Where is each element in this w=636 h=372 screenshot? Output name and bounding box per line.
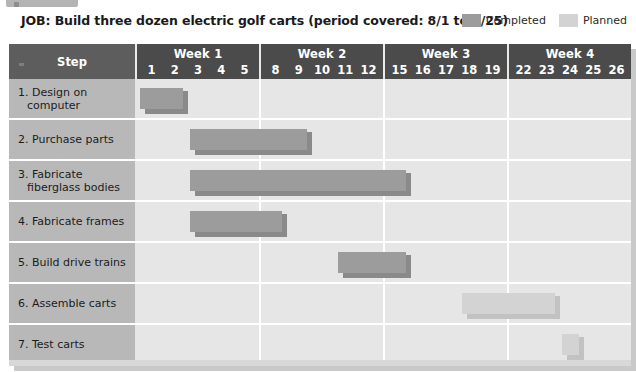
gantt-bar-face [190,170,406,191]
legend-item-completed: Completed [462,14,546,27]
legend: Completed Planned [462,14,627,27]
day-label: 8 [264,63,287,77]
step-label: 3. Fabricate fiberglass bodies [18,168,131,194]
gantt-bar-face [140,88,183,109]
tab-notch-icon [14,2,19,7]
day-label: 15 [388,63,411,77]
gantt-bar-bottom-shade [195,232,287,237]
day-label: 23 [535,63,558,77]
step-label: 5. Build drive trains [18,256,126,269]
gantt-bar-face [190,211,282,232]
week-divider-3 [507,79,509,366]
gantt-bar-bottom-shade [195,150,312,155]
day-label: 3 [186,63,209,77]
step-cell-5[interactable]: 5. Build drive trains [9,243,135,284]
week-day-labels: 2223242526 [509,63,631,77]
gantt-bar-face [338,252,405,273]
chart-bottom-strip [9,360,631,366]
week-header-label: Week 4 [509,47,631,61]
legend-swatch-completed-icon [462,14,481,27]
week-header-4: Week 42223242526 [507,44,631,79]
day-label: 18 [458,63,481,77]
gantt-bar-face [462,293,554,314]
gantt-bar-7[interactable] [562,334,580,355]
week-header-3: Week 31516171819 [383,44,507,79]
gantt-bar-6[interactable] [462,293,554,314]
day-label: 5 [233,63,256,77]
legend-label-completed: Completed [486,14,546,27]
steps-column: 1. Design on computer2. Purchase parts3.… [9,79,135,366]
gantt-bar-bottom-shade [195,191,411,196]
week-header-label: Week 1 [137,47,259,61]
chart-body: 1. Design on computer2. Purchase parts3.… [9,79,631,366]
week-header-2: Week 289101112 [259,44,383,79]
page-title: JOB: Build three dozen electric golf car… [21,13,508,28]
gantt-bar-bottom-shade [467,314,559,319]
day-label: 16 [411,63,434,77]
step-cell-3[interactable]: 3. Fabricate fiberglass bodies [9,161,135,202]
day-label: 24 [558,63,581,77]
step-cell-6[interactable]: 6. Assemble carts [9,284,135,325]
gantt-bar-5[interactable] [338,252,405,273]
window-tab-stub [6,0,78,7]
gantt-bar-1[interactable] [140,88,183,109]
day-label: 1 [140,63,163,77]
gantt-bar-2[interactable] [190,129,307,150]
day-label: 9 [287,63,310,77]
week-header-1: Week 112345 [135,44,259,79]
chart-header-row: Step Week 112345Week 289101112Week 31516… [9,44,631,79]
day-label: 11 [334,63,357,77]
week-header-label: Week 3 [385,47,507,61]
gantt-bar-bottom-shade [343,273,410,278]
week-header-label: Week 2 [261,47,383,61]
day-label: 25 [582,63,605,77]
step-cell-1[interactable]: 1. Design on computer [9,79,135,120]
legend-item-planned: Planned [559,14,627,27]
day-label: 2 [163,63,186,77]
day-label: 17 [434,63,457,77]
week-divider-2 [383,79,385,366]
step-label: 6. Assemble carts [18,297,116,310]
day-label: 12 [357,63,380,77]
step-label: 7. Test carts [18,338,85,351]
lanes-column [135,79,631,366]
step-label: 2. Purchase parts [18,133,114,146]
step-label: 1. Design on computer [18,86,131,112]
gantt-bar-bottom-shade [145,109,188,114]
step-cell-4[interactable]: 4. Fabricate frames [9,202,135,243]
gantt-bar-3[interactable] [190,170,406,191]
step-label: 4. Fabricate frames [18,215,124,228]
day-label: 10 [310,63,333,77]
week-day-labels: 89101112 [261,63,383,77]
week-day-labels: 1516171819 [385,63,507,77]
day-label: 22 [512,63,535,77]
week-day-labels: 12345 [137,63,259,77]
header-marker-icon [19,63,24,66]
step-cell-2[interactable]: 2. Purchase parts [9,120,135,161]
day-label: 19 [481,63,504,77]
legend-swatch-planned-icon [559,14,578,27]
gantt-bar-face [190,129,307,150]
day-label: 26 [605,63,628,77]
gantt-bar-4[interactable] [190,211,282,232]
gantt-bar-face [562,334,580,355]
legend-label-planned: Planned [583,14,627,27]
column-header-step: Step [9,44,135,79]
day-label: 4 [210,63,233,77]
gantt-chart: Step Week 112345Week 289101112Week 31516… [9,44,631,366]
